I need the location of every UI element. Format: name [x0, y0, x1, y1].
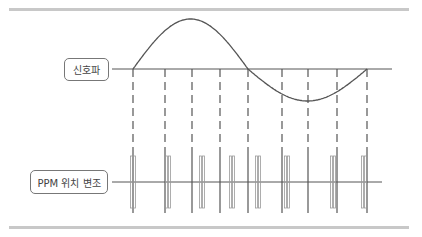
signal-label-text: 신호파 [73, 62, 100, 77]
sine-wave [133, 19, 367, 101]
signal-label: 신호파 [64, 58, 109, 81]
ppm-label-text: PPM 위치 변조 [37, 175, 100, 190]
ppm-label: PPM 위치 변조 [30, 170, 108, 194]
ppm-diagram [0, 0, 422, 237]
